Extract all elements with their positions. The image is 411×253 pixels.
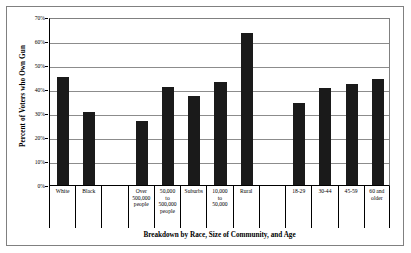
x-axis-title: Breakdown by Race, Size of Community, an…: [49, 231, 390, 239]
x-axis-category-cell: 30-44: [311, 186, 337, 228]
x-axis-category-cell: 18-29: [285, 186, 311, 228]
bar: [293, 103, 305, 185]
bar: [83, 112, 95, 185]
x-axis-category-label: 60 and older: [369, 188, 384, 201]
y-axis-tick-label: 70%: [35, 15, 45, 21]
x-axis-category-cell: White: [49, 186, 75, 228]
bar: [136, 121, 148, 185]
y-axis-tick-mark: [45, 138, 48, 139]
y-axis-tick-mark: [45, 90, 48, 91]
x-axis-category-label: Suburbs: [185, 188, 203, 195]
x-axis-category-cell: 60 and older: [364, 186, 390, 228]
x-axis-category-label: 10,000 to 50,000: [212, 188, 227, 208]
bar: [241, 33, 253, 185]
y-axis-tick-label: 40%: [35, 87, 45, 93]
y-axis-tick-label: 60%: [35, 39, 45, 45]
x-axis-category-cell: Suburbs: [180, 186, 206, 228]
y-axis-tick-label: 20%: [35, 135, 45, 141]
y-axis-tick-mark: [45, 66, 48, 67]
bar: [57, 77, 69, 185]
bar: [162, 87, 174, 185]
x-axis-category-cell: Over 500,000 people: [128, 186, 154, 228]
x-axis-category-cell: 50,000 to 500,000 people: [154, 186, 180, 228]
x-axis-category-cell: Rural: [233, 186, 259, 228]
plot-area: [49, 18, 390, 186]
x-axis-category-label: 50,000 to 500,000 people: [158, 188, 176, 214]
y-axis-tick-mark: [45, 114, 48, 115]
x-axis-category-cell: 10,000 to 50,000: [206, 186, 232, 228]
x-axis-category-cell: [101, 186, 127, 228]
x-axis-category-label: 18-29: [292, 188, 305, 195]
x-axis-category-label: White: [56, 188, 70, 195]
x-axis-category-cell: 45-59: [338, 186, 364, 228]
x-axis-category-label: 45-59: [345, 188, 358, 195]
bar: [214, 82, 226, 185]
bars-layer: [50, 19, 389, 185]
x-axis-category-label: Rural: [240, 188, 252, 195]
y-axis-tick-mark: [45, 162, 48, 163]
x-axis-category-cell: Black: [75, 186, 101, 228]
chart-figure: Percent of Voters who Own Gun 70%60%50%4…: [0, 0, 411, 253]
y-axis-tick-mark: [45, 186, 48, 187]
x-axis-category-labels: WhiteBlackOver 500,000 people50,000 to 5…: [49, 186, 390, 228]
y-axis-tick-mark: [45, 18, 48, 19]
x-axis-category-label: 30-44: [318, 188, 331, 195]
bar: [372, 79, 384, 185]
x-axis-category-label: Black: [82, 188, 95, 195]
y-axis-tick-label: 50%: [35, 63, 45, 69]
bar: [188, 96, 200, 185]
bar: [346, 84, 358, 185]
x-axis-category-cell: [259, 186, 285, 228]
y-axis-tick-mark: [45, 42, 48, 43]
bar: [319, 88, 331, 185]
y-axis-tick-label: 30%: [35, 111, 45, 117]
y-axis-tick-label: 0%: [38, 183, 45, 189]
y-axis-tick-label: 10%: [35, 159, 45, 165]
y-axis-tick-labels: 70%60%50%40%30%20%10%0%: [18, 18, 48, 186]
x-axis-category-label: Over 500,000 people: [132, 188, 150, 208]
